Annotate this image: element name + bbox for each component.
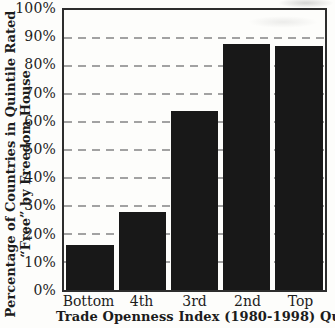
bar-top — [275, 46, 323, 290]
gridline — [64, 37, 325, 39]
bar-bottom — [66, 245, 114, 290]
y-tick-label: 0% — [33, 282, 56, 298]
x-axis-tick-labels: Bottom4th3rd2ndTop — [62, 293, 327, 310]
y-tick-label: 10% — [24, 253, 56, 269]
y-tick-label: 80% — [24, 56, 56, 72]
scan-artifact-smudge — [278, 0, 334, 8]
y-tick-label: 40% — [24, 169, 56, 185]
y-tick-label: 70% — [24, 84, 56, 100]
y-axis-tick-labels: 100%90%80%70%60%50%40%30%20%10%0% — [0, 8, 56, 290]
y-tick-label: 100% — [15, 0, 56, 16]
x-tick-label: 4th — [115, 293, 168, 310]
x-tick-label: 3rd — [168, 293, 221, 310]
x-tick-label: Bottom — [62, 293, 115, 310]
plot-area — [62, 8, 327, 292]
y-tick-label: 60% — [24, 112, 56, 128]
y-tick-label: 20% — [24, 225, 56, 241]
bar-2nd — [223, 44, 271, 290]
bar-chart-figure: Percentage of Countries in Quintile Rate… — [0, 0, 335, 328]
bar-3rd — [171, 111, 219, 290]
y-tick-label: 30% — [24, 197, 56, 213]
bar-4th — [119, 212, 167, 290]
y-tick-label: 50% — [24, 141, 56, 157]
y-tick-label: 90% — [24, 28, 56, 44]
x-tick-label: 2nd — [221, 293, 274, 310]
x-tick-label: Top — [274, 293, 327, 310]
x-axis-title: Trade Openness Index (1980-1998) Quintil… — [56, 309, 334, 324]
